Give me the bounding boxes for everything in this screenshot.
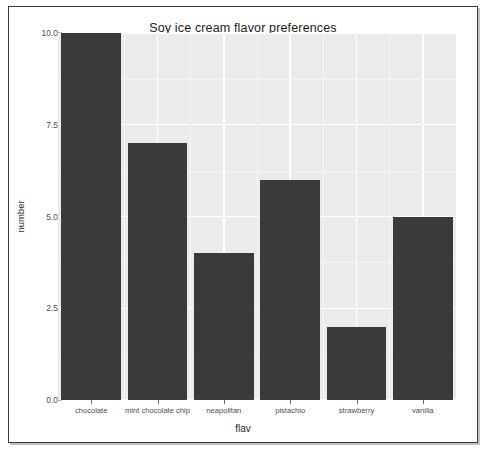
bar	[194, 253, 254, 400]
figure-page: Soy ice cream flavor preferences number …	[8, 6, 478, 443]
x-tick-mark	[91, 400, 92, 404]
y-tick-label: 7.5	[24, 120, 58, 130]
x-tick-mark	[290, 400, 291, 404]
x-tick-label: strawberry	[339, 406, 374, 415]
bar	[61, 33, 121, 400]
y-tick-label: 2.5	[24, 303, 58, 313]
x-tick-label: mint chocolate chip	[125, 406, 190, 415]
x-axis-title: flav	[9, 423, 477, 434]
y-axis: 0.02.55.07.510.0	[14, 33, 58, 400]
y-tick-label: 0.0	[24, 395, 58, 405]
x-tick-label: neapolitan	[206, 406, 241, 415]
x-tick-label: chocolate	[75, 406, 108, 415]
y-tick-label: 5.0	[24, 212, 58, 222]
chart-figure: Soy ice cream flavor preferences number …	[9, 7, 477, 442]
x-tick-mark	[224, 400, 225, 404]
x-axis: chocolatemint chocolate chipneapolitanpi…	[58, 400, 456, 422]
bar	[260, 180, 320, 400]
y-tick-label: 10.0	[24, 28, 58, 38]
x-tick-mark	[357, 400, 358, 404]
bar	[327, 327, 387, 400]
bar	[128, 143, 188, 400]
bars-layer	[58, 33, 456, 400]
x-tick-mark	[423, 400, 424, 404]
x-tick-label: pistachio	[275, 406, 305, 415]
plot-panel	[58, 33, 456, 400]
bar	[393, 217, 453, 401]
x-tick-label: vanilla	[412, 406, 434, 415]
x-tick-mark	[158, 400, 159, 404]
